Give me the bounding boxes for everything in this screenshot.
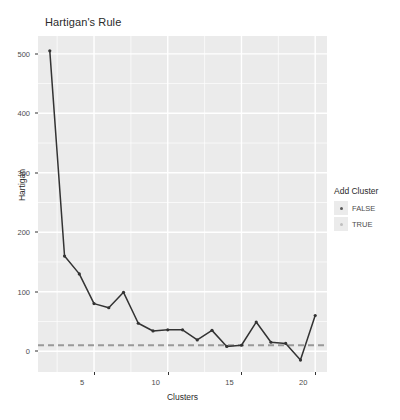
legend-key-swatch bbox=[334, 201, 348, 215]
y-axis-title: Hartigan bbox=[17, 155, 27, 215]
data-point bbox=[314, 314, 317, 317]
y-tick-label: 500 bbox=[4, 49, 30, 58]
data-point bbox=[78, 272, 81, 275]
plot-panel bbox=[38, 36, 327, 372]
plot-area bbox=[38, 36, 327, 372]
x-tick-mark bbox=[315, 372, 316, 375]
legend-items: FALSETRUE bbox=[334, 201, 400, 231]
data-point bbox=[225, 345, 228, 348]
legend-title: Add Cluster bbox=[334, 186, 400, 196]
y-tick-mark bbox=[35, 351, 38, 352]
data-point bbox=[63, 254, 66, 257]
data-point bbox=[240, 344, 243, 347]
data-point bbox=[181, 328, 184, 331]
data-point bbox=[48, 49, 51, 52]
x-tick-label: 15 bbox=[217, 378, 241, 387]
x-tick-mark bbox=[94, 372, 95, 375]
legend-point-icon bbox=[340, 223, 343, 226]
y-tick-label: 0 bbox=[4, 347, 30, 356]
y-tick-mark bbox=[35, 113, 38, 114]
legend: Add Cluster FALSETRUE bbox=[334, 186, 400, 233]
chart-title: Hartigan's Rule bbox=[45, 16, 121, 28]
x-tick-mark bbox=[168, 372, 169, 375]
y-tick-mark bbox=[35, 172, 38, 173]
x-tick-label: 20 bbox=[291, 378, 315, 387]
data-point bbox=[107, 306, 110, 309]
x-tick-mark bbox=[241, 372, 242, 375]
y-tick-mark bbox=[35, 53, 38, 54]
data-point bbox=[299, 359, 302, 362]
x-tick-label: 10 bbox=[144, 378, 168, 387]
data-point bbox=[92, 302, 95, 305]
legend-key-swatch bbox=[334, 217, 348, 231]
legend-item[interactable]: TRUE bbox=[334, 217, 400, 231]
x-tick-label: 5 bbox=[70, 378, 94, 387]
y-tick-label: 100 bbox=[4, 287, 30, 296]
data-point bbox=[269, 341, 272, 344]
y-tick-label: 200 bbox=[4, 228, 30, 237]
data-point bbox=[122, 291, 125, 294]
y-tick-label: 400 bbox=[4, 109, 30, 118]
data-point bbox=[137, 322, 140, 325]
chart-root: Hartigan's Rule 0100200300400500 5101520… bbox=[0, 0, 400, 420]
data-line bbox=[50, 51, 315, 360]
y-tick-mark bbox=[35, 232, 38, 233]
data-point bbox=[196, 338, 199, 341]
legend-item[interactable]: FALSE bbox=[334, 201, 400, 215]
data-point bbox=[255, 320, 258, 323]
data-point bbox=[210, 329, 213, 332]
data-point bbox=[151, 329, 154, 332]
legend-point-icon bbox=[340, 207, 343, 210]
legend-item-label: FALSE bbox=[352, 204, 375, 213]
data-point bbox=[166, 328, 169, 331]
data-point bbox=[284, 342, 287, 345]
legend-item-label: TRUE bbox=[352, 220, 372, 229]
y-tick-mark bbox=[35, 291, 38, 292]
x-axis-title: Clusters bbox=[38, 392, 327, 402]
